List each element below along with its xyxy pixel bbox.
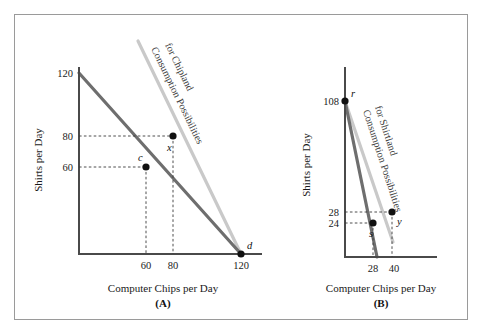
x-tick-120: 120 bbox=[233, 260, 249, 271]
x-axis-title-b: Computer Chips per Day bbox=[326, 282, 437, 294]
panel-letter-a: (A) bbox=[155, 297, 171, 310]
point-label-c: c bbox=[138, 152, 143, 163]
y-tick-108: 108 bbox=[323, 96, 339, 107]
x-tick-80: 80 bbox=[168, 260, 179, 271]
y-tick-80: 80 bbox=[63, 131, 74, 142]
y-tick-60: 60 bbox=[63, 162, 74, 173]
data-point-c bbox=[142, 163, 149, 170]
chart-panel-a: c x d 120 80 60 60 80 120 Consumption Po… bbox=[15, 15, 277, 319]
data-point-s bbox=[369, 219, 376, 226]
y-tick-28: 28 bbox=[329, 207, 340, 218]
point-label-r: r bbox=[351, 88, 356, 99]
production-possibilities-line-a bbox=[79, 73, 241, 254]
y-axis-title-b: Shirts per Day bbox=[300, 133, 312, 197]
y-axis-title-a: Shirts per Day bbox=[32, 128, 44, 192]
x-axis-title-a: Computer Chips per Day bbox=[108, 282, 219, 294]
point-label-y: y bbox=[396, 216, 402, 227]
x-tick-40: 40 bbox=[389, 263, 400, 274]
y-tick-24: 24 bbox=[329, 218, 340, 229]
x-tick-28: 28 bbox=[368, 263, 379, 274]
x-tick-60: 60 bbox=[141, 260, 152, 271]
point-label-d: d bbox=[247, 240, 253, 251]
data-point-r bbox=[341, 97, 348, 104]
point-label-x: x bbox=[166, 142, 172, 153]
panel-letter-b: (B) bbox=[374, 297, 389, 310]
figure-frame: c x d 120 80 60 60 80 120 Consumption Po… bbox=[14, 14, 468, 320]
data-point-d bbox=[237, 250, 244, 257]
panel-b-plot: r s y 108 28 24 28 40 Consumption Possib… bbox=[277, 15, 469, 321]
axes-a bbox=[79, 67, 262, 254]
data-point-x bbox=[169, 132, 176, 139]
y-tick-120: 120 bbox=[57, 68, 73, 79]
point-label-s: s bbox=[369, 228, 373, 239]
chart-panel-b: r s y 108 28 24 28 40 Consumption Possib… bbox=[277, 15, 469, 319]
panel-a-plot: c x d 120 80 60 60 80 120 Consumption Po… bbox=[15, 15, 277, 321]
